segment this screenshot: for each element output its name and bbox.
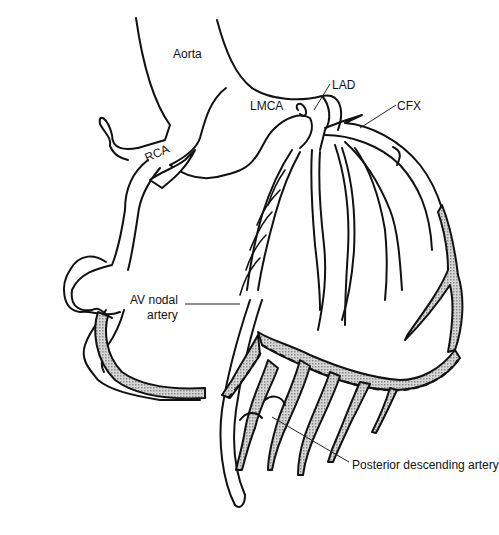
label-lmca: LMCA bbox=[250, 99, 283, 113]
label-av-nodal-line1: AV nodal bbox=[130, 293, 178, 307]
cfx-vessel bbox=[325, 115, 452, 300]
coronary-artery-diagram: Aorta LMCA LAD CFX RCA AV nodal artery P… bbox=[0, 0, 499, 535]
label-aorta: Aorta bbox=[173, 47, 202, 61]
rca-distal-shaded bbox=[95, 312, 205, 398]
posterior-lateral-shaded bbox=[405, 205, 462, 352]
label-posterior-descending-artery: Posterior descending artery bbox=[352, 458, 499, 472]
label-lad: LAD bbox=[332, 78, 356, 92]
label-av-nodal-line2: artery bbox=[147, 308, 178, 322]
label-cfx: CFX bbox=[397, 99, 421, 113]
labels: Aorta LMCA LAD CFX RCA AV nodal artery P… bbox=[130, 47, 499, 472]
aorta bbox=[136, 18, 252, 148]
cfx-leader-line bbox=[360, 105, 396, 128]
posterior-network bbox=[222, 332, 460, 475]
